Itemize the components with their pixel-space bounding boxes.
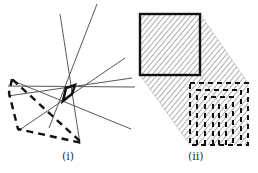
line [60, 14, 80, 144]
line [49, 4, 97, 128]
figure-canvas [0, 0, 258, 173]
panel-i [8, 4, 135, 144]
caption-ii: (ii) [188, 150, 204, 163]
panel-ii [130, 0, 258, 150]
line-arrangement [8, 4, 135, 144]
caption-i: (i) [62, 150, 74, 163]
